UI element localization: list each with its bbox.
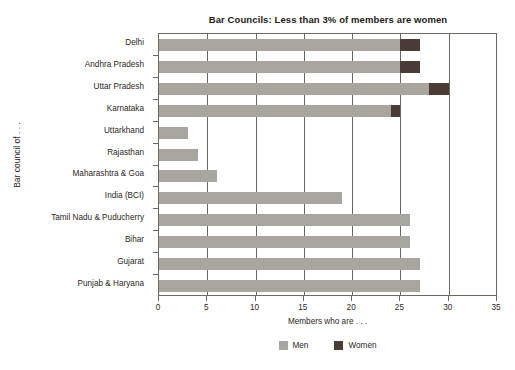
bar-segment-women <box>400 39 419 51</box>
x-tick-mark <box>158 296 159 301</box>
x-tick-mark <box>303 296 304 301</box>
y-tick-label: Andhra Pradesh <box>0 61 152 69</box>
x-tick-label: 10 <box>240 303 270 312</box>
y-tick-label: Tamil Nadu & Puducherry <box>0 214 152 222</box>
plot-area <box>158 33 497 296</box>
gridline <box>256 34 257 295</box>
y-tick-label: Delhi <box>0 39 152 47</box>
bar-row <box>159 61 420 73</box>
legend-label: Women <box>348 341 376 350</box>
bar-row <box>159 236 410 248</box>
legend-item: Men <box>279 341 309 350</box>
y-tick-mark <box>153 274 158 275</box>
x-tick-label: 5 <box>191 303 221 312</box>
gridline <box>449 34 450 295</box>
legend-label: Men <box>293 341 309 350</box>
x-tick-label: 15 <box>288 303 318 312</box>
y-tick-mark <box>153 252 158 253</box>
legend-swatch-icon <box>334 341 343 350</box>
bar-segment-men <box>159 236 410 248</box>
bar-row <box>159 170 217 182</box>
bar-row <box>159 258 420 270</box>
bar-segment-men <box>159 214 410 226</box>
chart-figure: Bar Councils: Less than 3% of members ar… <box>0 0 515 370</box>
y-tick-mark <box>153 99 158 100</box>
bar-segment-men <box>159 280 420 292</box>
y-tick-label: Maharashtra & Goa <box>0 170 152 178</box>
gridline <box>352 34 353 295</box>
gridline <box>207 34 208 295</box>
x-tick-label: 20 <box>336 303 366 312</box>
bar-segment-men <box>159 61 400 73</box>
x-tick-mark <box>399 296 400 301</box>
bar-row <box>159 105 400 117</box>
bar-segment-men <box>159 258 420 270</box>
y-tick-mark <box>153 186 158 187</box>
bar-segment-men <box>159 149 198 161</box>
x-axis-title: Members who are . . . <box>158 317 497 326</box>
bar-row <box>159 192 342 204</box>
gridline <box>400 34 401 295</box>
y-tick-mark <box>153 121 158 122</box>
y-tick-mark <box>153 55 158 56</box>
x-tick-label: 25 <box>384 303 414 312</box>
y-tick-label: Uttar Pradesh <box>0 83 152 91</box>
bar-row <box>159 83 449 95</box>
bar-segment-men <box>159 170 217 182</box>
x-tick-mark <box>206 296 207 301</box>
bar-row <box>159 39 420 51</box>
bar-segment-men <box>159 39 400 51</box>
bar-row <box>159 149 198 161</box>
gridline <box>304 34 305 295</box>
legend-swatch-icon <box>279 341 288 350</box>
y-tick-mark <box>153 230 158 231</box>
x-tick-mark <box>255 296 256 301</box>
bar-segment-men <box>159 83 429 95</box>
y-tick-label: Karnataka <box>0 105 152 113</box>
bar-row <box>159 280 420 292</box>
bar-segment-women <box>391 105 401 117</box>
y-tick-mark <box>153 77 158 78</box>
bar-segment-women <box>400 61 419 73</box>
y-tick-label: Punjab & Haryana <box>0 280 152 288</box>
y-tick-label: India (BCI) <box>0 192 152 200</box>
x-tick-mark <box>496 296 497 301</box>
y-tick-mark <box>153 143 158 144</box>
y-tick-mark <box>153 208 158 209</box>
y-tick-label: Rajasthan <box>0 149 152 157</box>
chart-legend: MenWomen <box>158 341 497 350</box>
bar-row <box>159 214 410 226</box>
legend-item: Women <box>334 341 376 350</box>
x-tick-label: 0 <box>143 303 173 312</box>
bar-segment-men <box>159 105 391 117</box>
y-tick-label: Bihar <box>0 236 152 244</box>
x-tick-mark <box>351 296 352 301</box>
bar-row <box>159 127 188 139</box>
y-tick-label: Uttarkhand <box>0 127 152 135</box>
x-tick-label: 30 <box>433 303 463 312</box>
chart-title: Bar Councils: Less than 3% of members ar… <box>158 14 498 25</box>
bar-segment-men <box>159 192 342 204</box>
y-tick-label: Gujarat <box>0 258 152 266</box>
bar-segment-men <box>159 127 188 139</box>
x-tick-label: 35 <box>481 303 511 312</box>
y-tick-mark <box>153 165 158 166</box>
x-tick-mark <box>448 296 449 301</box>
bar-segment-women <box>429 83 448 95</box>
